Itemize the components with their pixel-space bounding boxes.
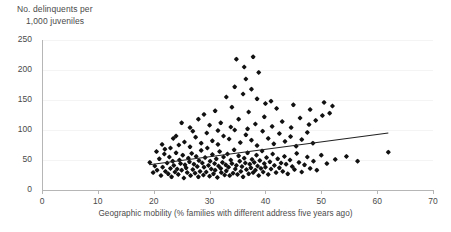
data-point <box>162 152 167 157</box>
data-point <box>298 116 303 121</box>
data-point <box>324 161 329 166</box>
data-point <box>207 123 212 128</box>
y-axis-line <box>42 40 43 190</box>
y-axis-title-line1: No. delinquents per <box>17 4 93 14</box>
data-point <box>308 166 313 171</box>
data-point <box>168 166 173 171</box>
data-point <box>185 170 190 175</box>
data-point <box>235 172 240 177</box>
data-point <box>282 139 287 144</box>
data-point <box>210 138 215 143</box>
data-point <box>264 155 269 160</box>
data-point <box>157 156 162 161</box>
y-axis-title-line2: 1,000 juveniles <box>17 16 93 28</box>
data-point <box>280 119 285 124</box>
data-point <box>234 57 239 62</box>
y-tick-label: 100 <box>18 124 32 134</box>
data-point <box>238 169 243 174</box>
data-point <box>237 159 242 164</box>
data-point <box>243 161 248 166</box>
data-point <box>245 126 250 131</box>
data-point <box>246 110 251 115</box>
data-point <box>151 170 156 175</box>
data-point <box>294 144 299 149</box>
x-tick-label: 0 <box>30 196 54 206</box>
scatter-chart: No. delinquents per1,000 juveniles 05010… <box>0 0 451 232</box>
data-point <box>198 169 203 174</box>
data-point <box>193 135 198 140</box>
data-point <box>289 125 294 130</box>
data-point <box>188 173 193 178</box>
data-point <box>272 163 277 168</box>
data-point <box>255 96 260 101</box>
data-point <box>344 154 349 159</box>
data-point <box>243 77 248 82</box>
data-point <box>327 111 332 116</box>
data-point <box>174 150 179 155</box>
data-point <box>241 92 246 97</box>
data-point <box>218 120 223 125</box>
data-point <box>266 172 271 177</box>
data-point <box>217 149 222 154</box>
data-point <box>306 122 311 127</box>
data-point <box>212 161 217 166</box>
x-tick-label: 50 <box>309 196 333 206</box>
data-point <box>209 167 214 172</box>
y-tick-label: 150 <box>18 94 32 104</box>
data-point <box>271 141 276 146</box>
data-point <box>311 159 316 164</box>
data-point <box>296 160 301 165</box>
data-point <box>154 149 159 154</box>
data-point <box>330 104 335 109</box>
data-point <box>279 161 284 166</box>
data-point <box>274 106 279 111</box>
data-point <box>256 70 261 75</box>
data-point <box>277 131 282 136</box>
data-point <box>305 155 310 160</box>
data-point <box>196 174 201 179</box>
data-point <box>256 173 261 178</box>
data-point <box>251 54 256 59</box>
data-point <box>207 174 212 179</box>
data-point <box>244 167 249 172</box>
data-point <box>257 158 262 163</box>
data-point <box>320 113 325 118</box>
data-point <box>188 144 193 149</box>
data-point <box>171 163 176 168</box>
data-point <box>275 156 280 161</box>
data-point <box>386 150 391 155</box>
data-point <box>266 136 271 141</box>
data-point <box>227 137 232 142</box>
data-point <box>305 130 310 135</box>
x-tick-label: 10 <box>86 196 110 206</box>
data-point <box>355 159 360 164</box>
data-point <box>299 170 304 175</box>
x-axis-line <box>42 190 433 191</box>
data-point <box>246 171 251 176</box>
data-point <box>160 165 165 170</box>
x-tick-mark <box>42 190 43 194</box>
x-tick-mark <box>321 190 322 194</box>
x-tick-mark <box>98 190 99 194</box>
data-points <box>147 54 391 180</box>
x-tick-label: 40 <box>253 196 277 206</box>
data-point <box>299 137 304 142</box>
x-tick-mark <box>433 190 434 194</box>
data-point <box>274 170 279 175</box>
data-point <box>288 134 293 139</box>
x-tick-label: 30 <box>198 196 222 206</box>
data-point <box>179 168 184 173</box>
data-point <box>196 117 201 122</box>
data-point <box>232 147 237 152</box>
data-point <box>180 153 185 158</box>
data-point <box>291 102 296 107</box>
data-point <box>236 117 241 122</box>
data-point <box>280 169 285 174</box>
data-point <box>242 65 247 70</box>
data-point <box>155 168 160 173</box>
data-point <box>208 159 213 164</box>
y-axis-title: No. delinquents per1,000 juveniles <box>17 4 93 27</box>
data-point <box>260 129 265 134</box>
data-point <box>294 151 299 156</box>
data-point <box>167 155 172 160</box>
